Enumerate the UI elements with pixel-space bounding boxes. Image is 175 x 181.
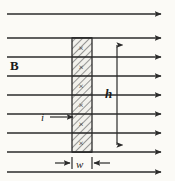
figure-canvas: × × × × × × (0, 0, 175, 181)
height-label-h: h (105, 87, 112, 100)
cross-mark: × (78, 43, 83, 53)
cross-mark: × (78, 62, 83, 72)
cross-mark: × (78, 100, 83, 110)
cross-mark: × (78, 119, 83, 129)
cross-mark: × (78, 138, 83, 148)
cross-mark: × (78, 81, 83, 91)
physics-figure-magnetic-field-slab: × × × × × × B h i w (0, 0, 175, 181)
current-label-i: i (41, 112, 44, 123)
field-label-B: B (10, 59, 19, 72)
width-label-w: w (76, 159, 83, 170)
